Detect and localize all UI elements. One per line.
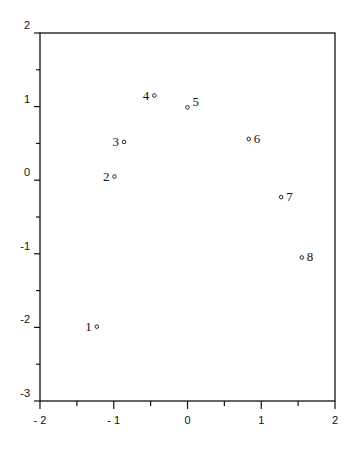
data-point-marker: [113, 175, 117, 179]
plot-border: [40, 33, 335, 401]
data-point-marker: [153, 94, 157, 98]
axis-ticks: - 2- 1012210-1-2-3: [20, 19, 338, 426]
data-point-label: 2: [103, 169, 110, 184]
y-tick-label: 1: [24, 93, 30, 105]
y-tick-label: 0: [24, 166, 30, 178]
y-tick-label: 2: [24, 19, 30, 31]
data-point-label: 1: [85, 319, 92, 334]
x-tick-label: - 1: [107, 414, 120, 426]
data-point-label: 3: [113, 134, 120, 149]
y-tick-label: -2: [20, 313, 30, 325]
y-tick-label: -1: [20, 240, 30, 252]
data-point-marker: [95, 325, 99, 329]
scatter-plot: - 2- 1012210-1-2-3 12345678: [0, 0, 356, 450]
data-point-marker: [300, 256, 304, 260]
x-tick-label: 1: [258, 414, 264, 426]
x-tick-label: 2: [332, 414, 338, 426]
data-point-marker: [186, 106, 190, 110]
data-point-label: 5: [193, 94, 200, 109]
y-tick-label: -3: [20, 387, 30, 399]
data-points: 12345678: [85, 88, 313, 334]
plot-frame: [40, 33, 335, 401]
data-point-label: 6: [254, 131, 261, 146]
x-tick-label: - 2: [34, 414, 47, 426]
data-point-marker: [247, 137, 251, 141]
data-point-label: 4: [143, 88, 150, 103]
data-point-label: 7: [286, 189, 293, 204]
x-tick-label: 0: [184, 414, 190, 426]
data-point-marker: [122, 140, 126, 144]
data-point-marker: [279, 195, 283, 199]
data-point-label: 8: [307, 249, 314, 264]
